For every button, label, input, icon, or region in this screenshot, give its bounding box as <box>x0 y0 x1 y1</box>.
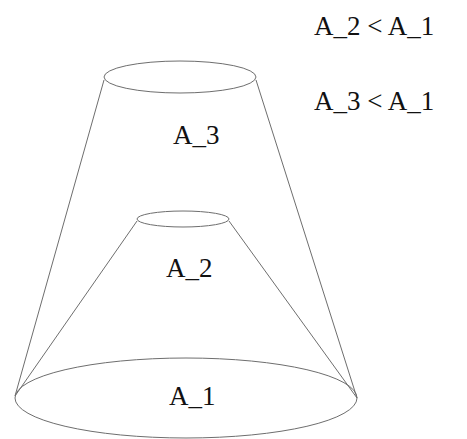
inner-cone <box>15 211 357 398</box>
label-a1: A_1 <box>169 381 216 411</box>
outer-cone-right-edge <box>256 80 357 398</box>
outer-cone-left-edge <box>15 80 104 396</box>
relation-a3-lt-a1: A_3 < A_1 <box>314 86 434 116</box>
relation-a2-lt-a1: A_2 < A_1 <box>314 11 434 41</box>
outer-cone <box>15 61 357 398</box>
top-ellipse-a3 <box>104 61 256 93</box>
nested-cones-diagram: A_3 A_2 A_1 A_2 < A_1 A_3 < A_1 <box>0 0 467 439</box>
inner-cone-right-edge <box>229 221 357 398</box>
inner-cone-left-edge <box>15 221 137 396</box>
label-a3: A_3 <box>173 120 220 150</box>
middle-ellipse-a2 <box>137 211 229 227</box>
label-a2: A_2 <box>166 253 213 283</box>
